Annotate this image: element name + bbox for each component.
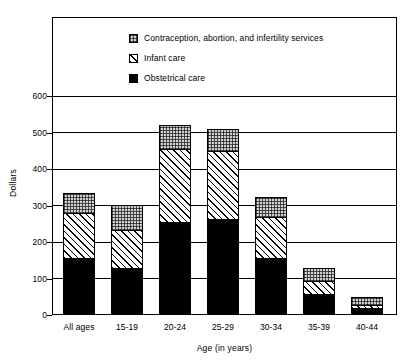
bar-segment-obstetrical-care[interactable] (111, 268, 143, 314)
bar-segment-obstetrical-care[interactable] (303, 294, 335, 314)
bar-segment-infant-care[interactable] (303, 281, 335, 295)
y-axis-tick-0 (47, 315, 52, 316)
bar-segment-contraception-abortion-infertility[interactable] (207, 129, 239, 153)
legend-label-infant-care: Infant care (144, 54, 185, 63)
legend-item-infant-care: Infant care (129, 51, 323, 66)
bar-segment-contraception-abortion-infertility[interactable] (351, 297, 383, 306)
gridline-600 (53, 96, 396, 97)
y-axis-labels: 0100200300400500600 (0, 0, 47, 360)
y-axis-label-0: 0 (3, 311, 47, 320)
legend-item-obstetrical-care: Obstetrical care (129, 71, 323, 86)
plot-area: Contraception, abortion, and infertility… (52, 17, 397, 315)
solid-black-swatch-icon (129, 74, 138, 83)
bar-segment-obstetrical-care[interactable] (159, 222, 191, 314)
bar-group-25-29[interactable] (207, 130, 239, 314)
y-axis-label-600: 600 (3, 92, 47, 101)
y-axis-label-100: 100 (3, 275, 47, 284)
diagonal-hatch-swatch-icon (129, 54, 138, 63)
bar-group-all-ages[interactable] (63, 194, 95, 314)
y-axis-label-300: 300 (3, 202, 47, 211)
stacked-bar-chart: Dollars 0100200300400500600 Contraceptio… (0, 0, 409, 360)
bar-segment-contraception-abortion-infertility[interactable] (303, 268, 335, 282)
bar-segment-infant-care[interactable] (255, 217, 287, 259)
bar-segment-infant-care[interactable] (159, 149, 191, 223)
bar-segment-contraception-abortion-infertility[interactable] (159, 125, 191, 150)
bar-segment-infant-care[interactable] (63, 213, 95, 259)
x-axis-label-40-44: 40-44 (337, 322, 397, 332)
bar-group-20-24[interactable] (159, 126, 191, 314)
bar-group-35-39[interactable] (303, 269, 335, 314)
chart-legend: Contraception, abortion, and infertility… (129, 31, 323, 91)
x-axis-title: Age (in years) (52, 343, 397, 353)
y-axis-label-400: 400 (3, 165, 47, 174)
y-axis-label-500: 500 (3, 129, 47, 138)
bar-group-40-44[interactable] (351, 298, 383, 314)
bar-segment-infant-care[interactable] (207, 151, 239, 220)
stipple-gray-swatch-icon (129, 34, 138, 43)
bar-segment-obstetrical-care[interactable] (255, 258, 287, 314)
legend-label-contraception: Contraception, abortion, and infertility… (144, 34, 323, 43)
bar-segment-contraception-abortion-infertility[interactable] (63, 193, 95, 214)
bar-segment-infant-care[interactable] (111, 230, 143, 270)
legend-label-obstetrical-care: Obstetrical care (144, 74, 205, 83)
bar-segment-obstetrical-care[interactable] (207, 219, 239, 314)
bar-segment-contraception-abortion-infertility[interactable] (255, 197, 287, 218)
y-axis-label-200: 200 (3, 238, 47, 247)
bar-segment-obstetrical-care[interactable] (63, 258, 95, 314)
bar-group-15-19[interactable] (111, 206, 143, 314)
bar-segment-contraception-abortion-infertility[interactable] (111, 205, 143, 231)
legend-item-contraception: Contraception, abortion, and infertility… (129, 31, 323, 46)
bar-group-30-34[interactable] (255, 198, 287, 314)
